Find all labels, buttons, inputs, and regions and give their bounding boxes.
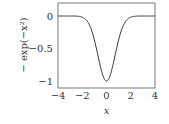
x-tick-label: −2 xyxy=(75,90,90,101)
y-tick-label: −1 xyxy=(38,76,53,87)
x-tick-label: −4 xyxy=(51,90,66,101)
x-axis-label: x xyxy=(104,105,110,116)
y-tick-label: −0.5 xyxy=(29,43,53,54)
y-axis-label: − exp(−x²) xyxy=(18,17,29,72)
data-line xyxy=(58,16,155,81)
y-axis-ticks: 0−0.5−1 xyxy=(29,11,53,87)
x-tick-label: 4 xyxy=(152,90,158,101)
x-tick-label: 0 xyxy=(103,90,109,101)
chart: −4−2024 0−0.5−1 x − exp(−x²) xyxy=(0,0,169,124)
x-tick-label: 2 xyxy=(128,90,134,101)
x-axis-ticks: −4−2024 xyxy=(51,90,159,101)
y-tick-label: 0 xyxy=(47,11,53,22)
